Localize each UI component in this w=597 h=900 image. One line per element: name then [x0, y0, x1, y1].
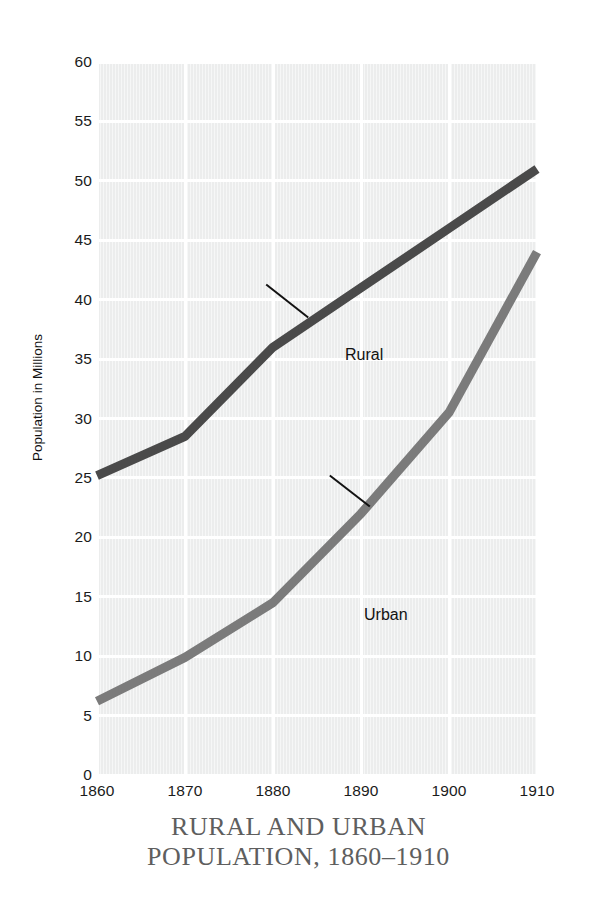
y-axis-tick-label: 0: [8, 767, 92, 783]
x-axis-tick-label: 1860: [57, 783, 137, 799]
leader-line-rural: [266, 284, 308, 317]
x-axis-tick-label: 1890: [321, 783, 401, 799]
x-axis-tick-label: 1880: [233, 783, 313, 799]
chart-title-line-2: POPULATION, 1860–1910: [0, 842, 597, 872]
y-axis-tick-label: 15: [8, 589, 92, 605]
y-axis-tick-label: 45: [8, 233, 92, 249]
y-axis-tick-label: 25: [8, 470, 92, 486]
y-axis-tick-label: 60: [8, 54, 92, 70]
y-axis-tick-label: 30: [8, 411, 92, 427]
chart-title-line-1: RURAL AND URBAN: [0, 812, 597, 842]
x-axis-tick-label: 1870: [145, 783, 225, 799]
x-axis-tick-label: 1910: [497, 783, 577, 799]
series-annotation-rural: Rural: [345, 347, 383, 363]
series-annotation-urban: Urban: [364, 607, 408, 623]
leader-line-urban: [330, 475, 370, 506]
y-axis-title: Population in Millions: [30, 298, 45, 498]
x-axis-tick-label: 1900: [409, 783, 489, 799]
y-axis-tick-label: 40: [8, 292, 92, 308]
y-axis-tick-label: 55: [8, 114, 92, 130]
plot-area: Rural Urban: [97, 62, 537, 775]
y-axis-tick-label: 50: [8, 173, 92, 189]
y-axis-ticks: 051015202530354045505560: [0, 62, 92, 775]
chart-title: RURAL AND URBAN POPULATION, 1860–1910: [0, 812, 597, 872]
y-axis-tick-label: 20: [8, 530, 92, 546]
y-axis-tick-label: 35: [8, 351, 92, 367]
chart-figure: Rural Urban 051015202530354045505560 186…: [0, 0, 597, 900]
x-axis-ticks: 186018701880189019001910: [0, 783, 597, 807]
y-axis-tick-label: 10: [8, 648, 92, 664]
y-axis-tick-label: 5: [8, 708, 92, 724]
line-series-rural: [97, 169, 537, 476]
series-plot: [97, 62, 537, 775]
